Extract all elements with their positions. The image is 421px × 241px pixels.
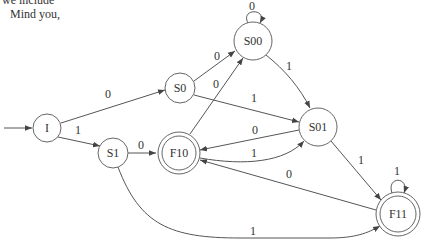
state-S01: S01	[299, 108, 337, 146]
edge-S1-F10: 0	[128, 138, 156, 153]
edge-S01-F11: 1	[331, 141, 381, 200]
edge-S01-F10: 0	[200, 123, 299, 150]
svg-text:1: 1	[251, 146, 257, 160]
svg-text:0: 0	[138, 138, 144, 152]
state-F11: F11	[376, 192, 420, 236]
svg-text:1: 1	[358, 153, 364, 167]
state-S1: S1	[98, 138, 128, 168]
svg-text:0: 0	[105, 87, 111, 101]
svg-text:1: 1	[251, 91, 257, 105]
edge-S1-F11: 1	[118, 167, 380, 238]
svg-text:0: 0	[252, 123, 258, 137]
svg-text:0: 0	[286, 167, 292, 181]
svg-text:S1: S1	[107, 146, 120, 160]
svg-text:1: 1	[394, 164, 400, 178]
state-diagram: 0 1 0 1 0 1 0 1 0 1	[0, 0, 421, 241]
state-F10: F10	[158, 132, 200, 174]
svg-text:F11: F11	[389, 207, 407, 221]
svg-text:0: 0	[214, 49, 220, 63]
edge-I-S1: 1	[58, 123, 100, 146]
svg-text:F10: F10	[170, 146, 189, 160]
edge-I-S0: 0	[61, 87, 165, 123]
svg-text:1: 1	[250, 224, 256, 238]
svg-text:1: 1	[286, 59, 292, 73]
edge-S00-S01: 1	[266, 55, 310, 108]
state-S00: S00	[234, 22, 272, 60]
svg-text:I: I	[45, 121, 49, 135]
svg-text:S00: S00	[244, 34, 263, 48]
edge-F11-F11: 1	[391, 164, 405, 193]
state-S0: S0	[165, 73, 195, 103]
svg-text:0: 0	[249, 0, 255, 13]
svg-text:S0: S0	[174, 81, 187, 95]
svg-text:0: 0	[213, 77, 219, 91]
edge-F11-F10: 0	[200, 160, 376, 210]
state-I: I	[33, 114, 61, 142]
edge-F10-S01: 1	[200, 141, 304, 162]
svg-text:1: 1	[75, 123, 81, 137]
svg-text:S01: S01	[309, 120, 328, 134]
edge-S00-S00: 0	[247, 0, 262, 23]
